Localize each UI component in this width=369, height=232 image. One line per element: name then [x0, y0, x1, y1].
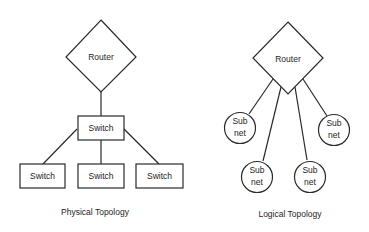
subnet-label-line2: net [234, 128, 246, 138]
subnet-label-line1: Sub [302, 165, 317, 175]
subnet-label-line2: net [328, 130, 340, 140]
switch-label: Switch [30, 171, 55, 181]
edge-core-switch-left [43, 129, 77, 164]
subnet-node-3: Sub net [242, 162, 273, 193]
topology-diagram: Router Switch Switch Switch Switch Physi… [0, 0, 369, 232]
switch-label: Switch [88, 171, 113, 181]
subnet-label-line1: Sub [232, 116, 247, 126]
access-switch-node-left: Switch [20, 164, 65, 188]
logical-topology: Router Sub net Sub net Sub net Sub net L… [225, 22, 350, 219]
router-label: Router [88, 52, 114, 62]
subnet-node-2: Sub net [319, 115, 350, 146]
switch-label: Switch [147, 171, 172, 181]
physical-topology-caption: Physical Topology [61, 207, 130, 217]
router-label: Router [275, 54, 301, 64]
core-switch-node: Switch [78, 116, 124, 140]
subnet-label-line2: net [251, 177, 263, 187]
edge-core-switch-right [124, 129, 159, 164]
edge-router-subnet-2 [303, 79, 327, 116]
subnet-label-line1: Sub [249, 165, 264, 175]
access-switch-node-right: Switch [136, 164, 183, 188]
edge-router-subnet-4 [295, 87, 307, 160]
physical-topology: Router Switch Switch Switch Switch Physi… [20, 20, 183, 217]
subnet-label-line1: Sub [326, 118, 341, 128]
subnet-label-line2: net [304, 177, 316, 187]
physical-router-node: Router [66, 20, 136, 92]
switch-label: Switch [88, 123, 113, 133]
subnet-node-4: Sub net [295, 162, 326, 193]
logical-topology-caption: Logical Topology [258, 209, 322, 219]
edge-router-subnet-3 [263, 87, 281, 161]
edge-router-subnet-1 [249, 79, 273, 114]
access-switch-node-middle: Switch [78, 164, 124, 188]
logical-router-node: Router [253, 22, 323, 94]
subnet-node-1: Sub net [225, 113, 256, 144]
